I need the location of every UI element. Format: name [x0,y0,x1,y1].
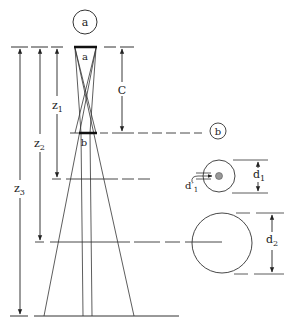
imaging-geometry-diagram: a a b b C [0,0,299,329]
c-label: C [118,84,126,97]
d1-prime-label: d′1 [185,180,198,194]
callout-b-label: b [215,126,221,137]
object-a-label: a [82,51,88,62]
d1-prime-indicator [192,173,212,182]
callout-b: b [210,123,226,139]
large-image-circle [192,213,252,273]
callout-a-label: a [82,16,89,29]
object-b-label: b [81,137,87,148]
callout-a: a [73,10,97,34]
